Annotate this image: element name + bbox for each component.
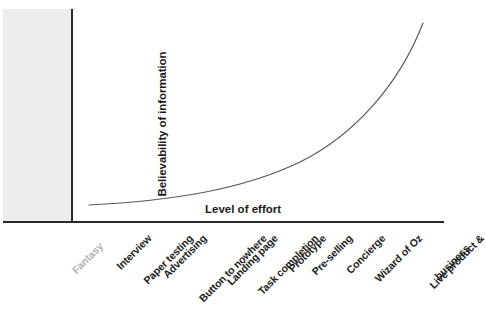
tick-label-interview: Interview xyxy=(114,232,154,272)
tick-label-fantasy: Fantasy xyxy=(69,240,105,276)
tick-label-live-product-business-line2: business xyxy=(432,242,472,282)
tick-label-button-to-nowhere: Button to nowhere xyxy=(196,232,268,304)
